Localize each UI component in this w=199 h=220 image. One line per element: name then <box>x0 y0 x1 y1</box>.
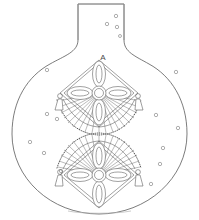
figure-label-a: A <box>100 53 106 62</box>
vessel-drawing: A <box>0 0 199 220</box>
rosette-center <box>92 168 106 182</box>
figure-root: A <box>0 0 199 220</box>
surface-dot <box>174 70 177 73</box>
rosette-center <box>92 86 106 100</box>
